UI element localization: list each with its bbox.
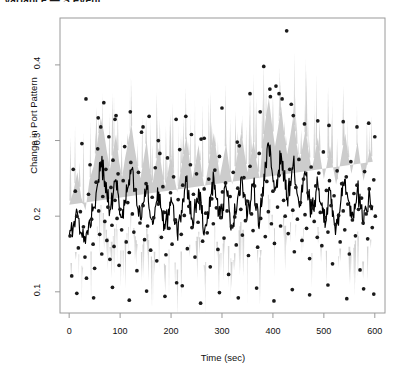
y-tick-label: 0.2 [32,199,42,229]
x-tick-label: 300 [202,326,242,336]
y-tick-label: 0.1 [32,275,42,305]
y-tick-label: 0.3 [32,124,42,154]
x-tick-label: 400 [253,326,293,336]
plot-figure: Variance — S Event Change in Port Patter… [0,0,406,377]
y-tick-label: 0.4 [32,48,42,78]
x-tick-label: 500 [304,326,344,336]
confidence-band [69,52,373,315]
x-tick-label: 600 [355,326,395,336]
x-tick-label: 0 [49,326,89,336]
x-tick-label: 200 [151,326,191,336]
plot-canvas [0,0,406,377]
x-tick-label: 100 [100,326,140,336]
